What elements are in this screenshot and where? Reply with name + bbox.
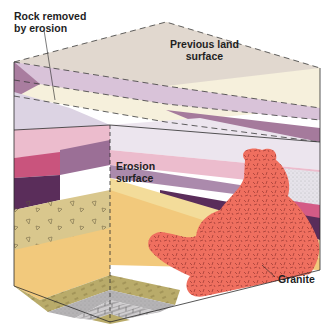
granite-label: Granite bbox=[278, 273, 315, 285]
rock-removed-label: Rock removed by erosion bbox=[14, 10, 86, 34]
rock-removed-line1: Rock removed bbox=[14, 10, 86, 22]
erosion-surface-label: Erosion surface bbox=[116, 160, 155, 184]
previous-land-line2: surface bbox=[170, 50, 239, 62]
rock-removed-line2: by erosion bbox=[14, 22, 86, 34]
previous-land-line1: Previous land bbox=[170, 38, 239, 50]
erosion-surface-line2: surface bbox=[116, 172, 155, 184]
previous-land-label: Previous land surface bbox=[170, 38, 239, 62]
erosion-surface-line1: Erosion bbox=[116, 160, 155, 172]
